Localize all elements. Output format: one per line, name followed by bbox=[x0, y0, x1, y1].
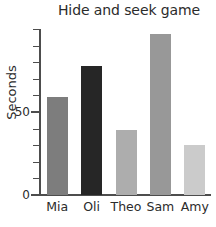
bar-chart: Hide and seek game Seconds 050 MiaOliThe… bbox=[0, 0, 216, 227]
y-axis-tick bbox=[33, 129, 40, 130]
y-axis-tick bbox=[33, 79, 40, 80]
y-axis-tick bbox=[33, 29, 40, 30]
x-axis-tick-label: Oli bbox=[74, 199, 108, 214]
chart-title: Hide and seek game bbox=[46, 2, 212, 19]
bar bbox=[81, 66, 102, 195]
y-axis-tick bbox=[33, 95, 40, 96]
y-axis-tick bbox=[33, 145, 40, 146]
x-axis-tick-label: Mia bbox=[40, 199, 74, 214]
y-axis-tick bbox=[31, 111, 40, 113]
bar bbox=[116, 130, 137, 195]
y-axis-tick bbox=[33, 162, 40, 163]
y-axis-tick-labels: 050 bbox=[0, 0, 30, 227]
x-axis-tick-labels: MiaOliTheoSamAmy bbox=[40, 199, 216, 219]
bar bbox=[150, 34, 171, 195]
y-axis-tick-label: 0 bbox=[2, 189, 30, 201]
x-axis-tick-label: Theo bbox=[109, 199, 143, 214]
y-axis-tick bbox=[33, 46, 40, 47]
bar-series bbox=[40, 29, 212, 195]
y-axis-tick bbox=[33, 178, 40, 179]
y-axis-tick bbox=[31, 194, 40, 196]
y-axis-tick-label: 50 bbox=[2, 106, 30, 118]
y-axis-tick bbox=[33, 62, 40, 63]
bar bbox=[47, 97, 68, 195]
x-axis-tick-label: Amy bbox=[178, 199, 212, 214]
bar bbox=[184, 145, 205, 195]
x-axis-tick-label: Sam bbox=[143, 199, 177, 214]
